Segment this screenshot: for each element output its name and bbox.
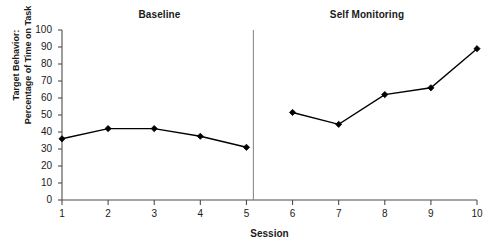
y-tick-label: 50 (26, 110, 52, 120)
x-tick-label: 9 (419, 209, 443, 219)
data-point-marker (197, 133, 203, 139)
y-tick-label: 10 (26, 178, 52, 188)
y-axis-ticks (58, 30, 62, 200)
x-tick-label: 1 (50, 209, 74, 219)
data-series (59, 126, 250, 151)
x-tick-label: 2 (96, 209, 120, 219)
data-point-marker (59, 136, 65, 142)
x-tick-label: 5 (234, 209, 258, 219)
y-tick-label: 30 (26, 144, 52, 154)
y-tick-label: 20 (26, 161, 52, 171)
x-tick-label: 6 (281, 209, 305, 219)
y-tick-label: 0 (26, 195, 52, 205)
y-tick-label: 100 (26, 25, 52, 35)
data-point-marker (243, 144, 249, 150)
data-point-marker (289, 109, 295, 115)
x-tick-label: 4 (188, 209, 212, 219)
y-tick-label: 90 (26, 42, 52, 52)
y-tick-label: 60 (26, 93, 52, 103)
series-line (293, 49, 477, 125)
data-point-marker (105, 126, 111, 132)
x-tick-label: 8 (373, 209, 397, 219)
y-tick-label: 70 (26, 76, 52, 86)
x-tick-label: 7 (327, 209, 351, 219)
x-tick-label: 3 (142, 209, 166, 219)
data-point-marker (151, 126, 157, 132)
x-axis-ticks (62, 200, 477, 205)
data-series (289, 46, 480, 128)
x-tick-label: 10 (465, 209, 489, 219)
y-tick-label: 40 (26, 127, 52, 137)
chart-container: Baseline Self Monitoring Target Behavior… (0, 0, 489, 247)
axis-lines (62, 30, 477, 200)
y-tick-label: 80 (26, 59, 52, 69)
